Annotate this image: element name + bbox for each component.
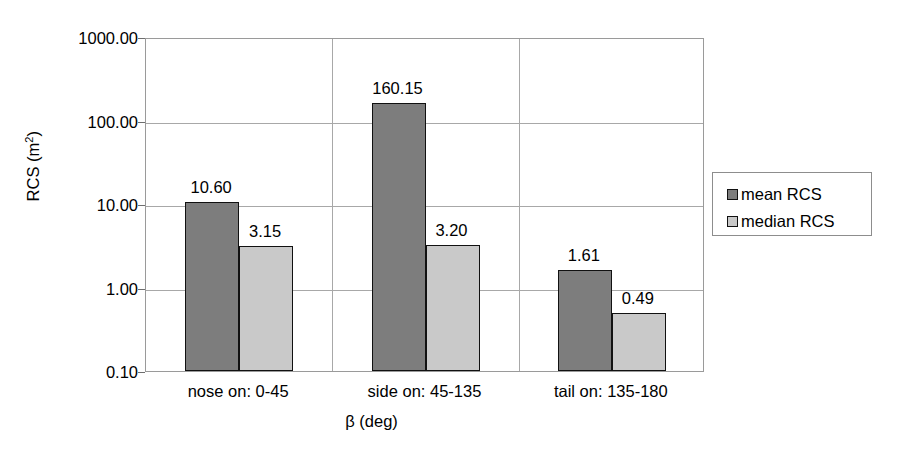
x-axis-title-text: β (deg) <box>345 412 398 430</box>
y-axis-tick-mark <box>138 372 145 373</box>
bar-value-label: 0.49 <box>622 289 654 308</box>
bar-mean <box>558 270 612 371</box>
legend-item-label: median RCS <box>741 212 835 231</box>
bar-value-label: 160.15 <box>372 79 422 98</box>
gridline-vertical <box>519 39 520 371</box>
legend: mean RCSmedian RCS <box>712 172 872 236</box>
y-axis-title-close: ) <box>24 131 42 137</box>
y-axis-title: RCS (m2) <box>23 71 44 261</box>
y-axis-title-base: RCS (m <box>24 143 42 202</box>
bar-median <box>612 313 666 371</box>
bar-value-label: 3.15 <box>249 222 281 241</box>
x-axis-title: β (deg) <box>0 412 905 431</box>
legend-swatch-icon <box>727 189 738 200</box>
y-axis-tick-label: 1000.00 <box>78 29 138 48</box>
y-axis-tick-mark <box>138 289 145 290</box>
bar-value-label: 3.20 <box>435 221 467 240</box>
y-axis-tick-mark <box>138 205 145 206</box>
y-axis-tick-mark <box>138 38 145 39</box>
legend-item-label: mean RCS <box>741 185 822 204</box>
rcs-bar-chart: 1000.00100.0010.001.000.10 RCS (m2) nose… <box>0 0 905 465</box>
x-axis-tick-label: nose on: 0-45 <box>188 382 289 401</box>
y-axis-title-superscript: 2 <box>23 137 35 143</box>
y-axis-tick-label: 1.00 <box>106 279 138 298</box>
plot-area <box>145 38 704 372</box>
legend-item: mean RCS <box>727 185 822 204</box>
bar-mean <box>372 103 426 371</box>
y-axis-tick-label: 10.00 <box>97 196 138 215</box>
x-axis-tick-label: tail on: 135-180 <box>554 382 668 401</box>
legend-swatch-icon <box>727 216 738 227</box>
y-axis-tick-mark <box>138 122 145 123</box>
legend-item: median RCS <box>727 212 835 231</box>
x-axis-tick-label: side on: 45-135 <box>368 382 482 401</box>
bar-mean <box>185 202 239 371</box>
bar-value-label: 10.60 <box>191 178 232 197</box>
bar-median <box>239 246 293 371</box>
bar-median <box>426 245 480 371</box>
y-axis-tick-label: 0.10 <box>106 363 138 382</box>
bar-value-label: 1.61 <box>568 246 600 265</box>
gridline-vertical <box>332 39 333 371</box>
y-axis-tick-label: 100.00 <box>88 112 138 131</box>
y-axis-tick-labels: 1000.00100.0010.001.000.10 <box>40 0 138 465</box>
